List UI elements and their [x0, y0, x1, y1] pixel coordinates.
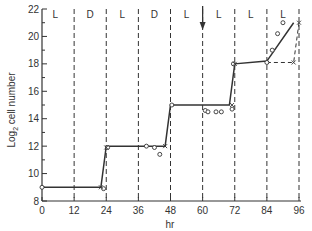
x-tick-label: 96	[293, 205, 305, 216]
alternate-curve-line	[267, 23, 299, 63]
circle-marker	[206, 110, 210, 114]
y-tick-label: 16	[28, 86, 40, 97]
circle-marker	[270, 48, 274, 52]
period-label: D	[151, 9, 158, 20]
x-tick-label: 48	[165, 205, 177, 216]
y-tick-label: 20	[28, 31, 40, 42]
period-label: L	[248, 9, 254, 20]
x-tick-label: 12	[69, 205, 81, 216]
x-tick-label: 72	[229, 205, 241, 216]
annotations	[200, 6, 206, 30]
y-tick-label: 12	[28, 141, 40, 152]
x-tick-label: 24	[101, 205, 113, 216]
circle-marker	[152, 146, 156, 150]
y-tick-label: 14	[28, 113, 40, 124]
y-tick-label: 10	[28, 168, 40, 179]
circle-marker	[276, 32, 280, 36]
period-label: L	[184, 9, 190, 20]
growth-chart: LDLDLLLL 8101214161820220122436486072849…	[0, 0, 312, 231]
circle-marker	[170, 103, 174, 107]
circle-marker	[219, 110, 223, 114]
period-label: L	[280, 9, 286, 20]
y-axis-label: Log2 cell number	[6, 72, 19, 148]
circle-marker	[214, 110, 218, 114]
x-tick-label: 36	[133, 205, 145, 216]
x-tick-label: 84	[261, 205, 273, 216]
period-label: L	[53, 9, 59, 20]
arrow-head-icon	[200, 22, 206, 30]
circle-marker	[265, 60, 269, 64]
step-growth-curve-line	[42, 23, 294, 188]
period-label: L	[120, 9, 126, 20]
x-tick-label: 60	[197, 205, 209, 216]
x-marker	[230, 103, 234, 107]
y-tick-label: 18	[28, 58, 40, 69]
x-tick-label: 0	[39, 205, 45, 216]
period-labels: LDLDLLLL	[53, 9, 287, 20]
x-axis-label: hr	[166, 219, 176, 230]
axes: 81012141618202201224364860728496	[28, 4, 305, 217]
circle-marker	[158, 152, 162, 156]
circle-marker	[144, 144, 148, 148]
circle-marker	[230, 107, 234, 111]
period-label: L	[216, 9, 222, 20]
circle-marker	[40, 185, 44, 189]
y-tick-label: 22	[28, 4, 40, 15]
period-label: D	[87, 9, 94, 20]
circle-marker	[281, 21, 285, 25]
chart-canvas: LDLDLLLL 8101214161820220122436486072849…	[0, 0, 312, 231]
